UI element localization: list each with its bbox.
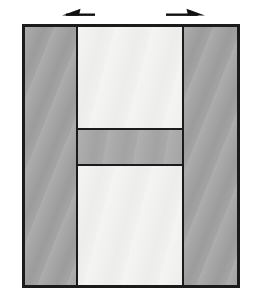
right-side-block bbox=[184, 27, 237, 285]
extension-arrows bbox=[0, 0, 256, 22]
lower-center-block bbox=[78, 166, 182, 285]
block-diagram-outline bbox=[22, 24, 240, 288]
upper-center-block bbox=[78, 27, 182, 128]
figure-canvas bbox=[0, 0, 256, 303]
middle-band bbox=[78, 128, 182, 166]
arrow-left-icon bbox=[62, 9, 95, 16]
left-side-block bbox=[25, 27, 76, 285]
center-column bbox=[76, 27, 184, 285]
arrow-right-icon bbox=[166, 9, 205, 16]
